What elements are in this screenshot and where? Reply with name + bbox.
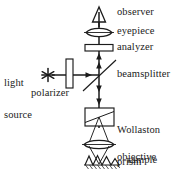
beam-arrow-down-upper xyxy=(96,86,102,93)
illumination-beam xyxy=(52,72,99,78)
beam-arrow-up-upper xyxy=(96,53,102,60)
label-eyepiece: eyepiece xyxy=(117,26,155,37)
label-objective-lens: objective lens xyxy=(117,131,156,173)
label-observer: observer xyxy=(117,7,154,18)
eyepiece-icon xyxy=(84,28,114,36)
label-beamsplitter: beamsplitter xyxy=(117,69,170,80)
beam-arrow-up-lower xyxy=(96,62,102,69)
light-source-icon xyxy=(42,69,54,82)
sample-hatching xyxy=(86,165,120,169)
beam-arrow-down-lower xyxy=(96,99,102,106)
sample-icon xyxy=(84,156,120,166)
label-light-source-line2: source xyxy=(4,110,32,121)
label-light-source: light source xyxy=(4,57,32,131)
analyzer-icon xyxy=(85,45,113,52)
objective-lens-icon xyxy=(82,140,116,148)
label-sample: sample xyxy=(127,155,157,166)
label-light-source-line1: light xyxy=(4,78,32,89)
label-polarizer: polarizer xyxy=(31,88,69,99)
observer-icon xyxy=(93,7,106,27)
label-analyzer: analyzer xyxy=(117,42,153,53)
polarizer-icon xyxy=(66,59,73,88)
